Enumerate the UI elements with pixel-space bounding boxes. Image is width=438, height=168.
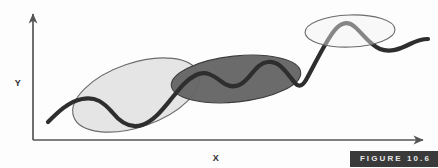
figure-graphic: Y X <box>0 0 438 168</box>
cluster-ellipse-light-right <box>304 13 395 48</box>
x-axis-label: X <box>213 153 220 163</box>
y-axis-label: Y <box>15 78 22 88</box>
figure-container: Y X FIGURE 10.6 <box>0 0 438 168</box>
figure-caption-badge: FIGURE 10.6 <box>351 152 438 166</box>
